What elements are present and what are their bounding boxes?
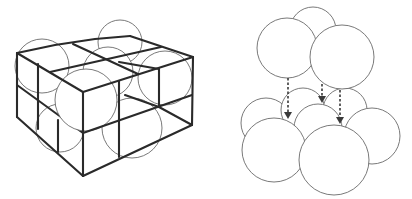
- sphere-top-right: [310, 25, 374, 89]
- sphere-bottom-front-right: [299, 125, 369, 195]
- figure: [0, 0, 412, 199]
- sphere-bottom-front-left: [242, 118, 306, 182]
- packing-diagram: [0, 0, 412, 199]
- sphere-front-top: [55, 69, 117, 131]
- sphere-stacking: [241, 7, 400, 195]
- cube-edge: [159, 107, 192, 125]
- cube-lattice: [15, 20, 193, 176]
- cube-edge: [192, 57, 193, 125]
- sphere-top-left: [257, 18, 317, 78]
